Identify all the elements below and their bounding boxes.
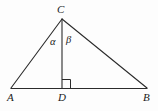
angle-label-beta: β <box>66 35 71 46</box>
triangle-svg <box>0 0 158 111</box>
side-ca-line <box>11 19 62 88</box>
right-angle-icon <box>62 80 71 89</box>
geometry-figure: C A D B α β <box>0 0 158 111</box>
angle-label-alpha: α <box>50 37 56 48</box>
vertex-label-c: C <box>57 4 64 15</box>
vertex-label-d: D <box>58 92 66 103</box>
side-cb-line <box>62 19 147 88</box>
vertex-label-b: B <box>143 92 150 103</box>
vertex-label-a: A <box>7 92 14 103</box>
